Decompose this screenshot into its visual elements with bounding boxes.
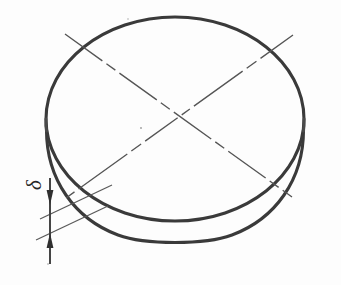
- thickness-delta-label: δ: [24, 174, 50, 196]
- disc-drawing-svg: [0, 0, 341, 285]
- paper-speck: [140, 127, 142, 129]
- left-wall-edge: [46, 119, 47, 131]
- bottom-face-arc: [47, 130, 304, 243]
- dimension-arrow-lower: [47, 233, 54, 248]
- extension-line-lower: [36, 206, 108, 240]
- paper-speck: [47, 263, 49, 265]
- right-wall-edge: [304, 119, 305, 131]
- technical-drawing-canvas: δ: [0, 0, 341, 285]
- paper-speck: [127, 18, 128, 19]
- centerline-a: [65, 34, 292, 197]
